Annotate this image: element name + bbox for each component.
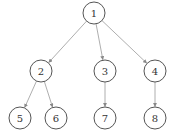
node-label: 7 <box>102 113 108 124</box>
node-4: 4 <box>144 60 166 82</box>
tree-diagram: 12345678 <box>0 0 173 139</box>
node-6: 6 <box>45 107 67 129</box>
node-label: 5 <box>17 113 23 124</box>
edge-1-3 <box>96 24 103 60</box>
node-label: 8 <box>152 113 158 124</box>
node-label: 1 <box>91 8 97 19</box>
node-3: 3 <box>94 60 116 82</box>
edge-2-6 <box>44 81 52 107</box>
node-7: 7 <box>94 107 116 129</box>
node-label: 2 <box>38 66 44 77</box>
node-2: 2 <box>30 60 52 82</box>
edge-1-4 <box>102 21 147 63</box>
node-label: 4 <box>152 66 158 77</box>
node-1: 1 <box>83 2 105 24</box>
edge-2-5 <box>25 81 37 107</box>
node-8: 8 <box>144 107 166 129</box>
node-label: 3 <box>102 66 108 77</box>
edge-1-2 <box>49 21 87 62</box>
nodes: 12345678 <box>9 2 166 129</box>
node-5: 5 <box>9 107 31 129</box>
node-label: 6 <box>53 113 59 124</box>
